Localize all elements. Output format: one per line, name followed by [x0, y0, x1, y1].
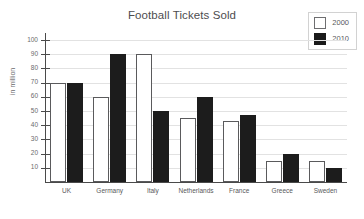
bar-group-sweden: [309, 33, 342, 182]
bar-uk-2010[interactable]: [67, 83, 83, 182]
x-label-sweden: Sweden: [304, 188, 347, 195]
y-tick-label-60: 60: [31, 93, 38, 100]
x-label-uk: UK: [45, 188, 88, 195]
y-tick-label-30: 30: [31, 136, 38, 143]
bar-sweden-2010[interactable]: [326, 168, 342, 182]
y-tick-label-50: 50: [31, 108, 38, 115]
bar-netherlands-2010[interactable]: [197, 97, 213, 182]
y-tick-label-80: 80: [31, 65, 38, 72]
bar-italy-2000[interactable]: [136, 54, 152, 182]
bar-group-uk: [50, 33, 83, 182]
bar-france-2000[interactable]: [223, 121, 239, 182]
y-tick-label-90: 90: [31, 51, 38, 58]
x-label-germany: Germany: [88, 188, 131, 195]
bar-france-2010[interactable]: [240, 115, 256, 182]
y-tick-label-100: 100: [27, 37, 38, 44]
bar-group-netherlands: [180, 33, 213, 182]
y-tick-label-70: 70: [31, 79, 38, 86]
bar-group-greece: [266, 33, 299, 182]
bar-group-france: [223, 33, 256, 182]
bar-group-italy: [136, 33, 169, 182]
legend-swatch-2000: [314, 17, 326, 29]
y-tick-label-20: 20: [31, 150, 38, 157]
x-label-greece: Greece: [261, 188, 304, 195]
bar-germany-2010[interactable]: [110, 54, 126, 182]
y-axis-label: in million: [9, 68, 16, 95]
legend-label-2000: 2000: [332, 19, 349, 27]
y-tick-label-40: 40: [31, 122, 38, 129]
bar-groups: [45, 33, 347, 182]
bar-uk-2000[interactable]: [50, 83, 66, 182]
bar-greece-2010[interactable]: [283, 154, 299, 182]
plot-area: 102030405060708090100: [45, 33, 347, 182]
x-label-france: France: [218, 188, 261, 195]
bar-greece-2000[interactable]: [266, 161, 282, 182]
bar-italy-2010[interactable]: [153, 111, 169, 182]
x-axis-spine: [45, 182, 347, 183]
bar-chart: Football Tickets Sold 2000 2010 in milli…: [0, 0, 364, 219]
x-label-netherlands: Netherlands: [174, 188, 217, 195]
x-label-italy: Italy: [131, 188, 174, 195]
bar-netherlands-2000[interactable]: [180, 118, 196, 182]
bar-group-germany: [93, 33, 126, 182]
legend-item-2000[interactable]: 2000: [314, 17, 349, 29]
y-tick-label-10: 10: [31, 164, 38, 171]
bar-sweden-2000[interactable]: [309, 161, 325, 182]
bar-germany-2000[interactable]: [93, 97, 109, 182]
